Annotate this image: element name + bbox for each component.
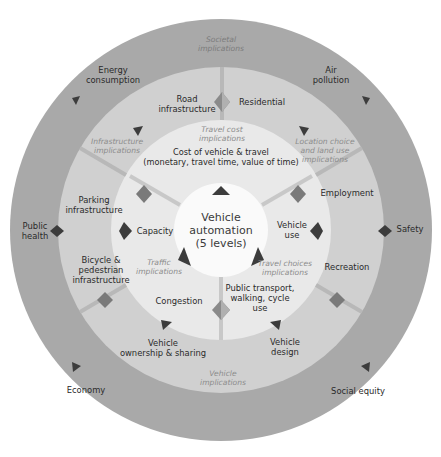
label-public-health: Public health (22, 221, 49, 241)
label-air-pollution: Air pollution (313, 65, 349, 85)
label-travel-cost-implications: Travel cost implications (199, 125, 245, 143)
label-congestion: Congestion (155, 296, 202, 306)
label-societal-implications: Societal implications (198, 35, 244, 53)
label-travel-choices-implications: Travel choices implications (258, 259, 312, 277)
label-infrastructure-implications: Infrastructure implications (91, 137, 143, 155)
label-location-choice-implications: Location choice and land use implication… (295, 137, 354, 164)
label-vehicle-use: Vehicle use (277, 220, 307, 240)
label-vehicle-ownership-sharing: Vehicle ownership & sharing (120, 338, 206, 358)
label-recreation: Recreation (325, 262, 370, 272)
label-public-transport: Public transport, walking, cycle use (226, 283, 295, 313)
label-vehicle-implications: Vehicle implications (200, 369, 246, 387)
label-economy: Economy (67, 385, 106, 395)
label-parking-infrastructure: Parking infrastructure (65, 195, 122, 215)
label-bicycle-pedestrian-infrastructure: Bicycle & pedestrian infrastructure (72, 255, 129, 285)
label-cost-of-vehicle: Cost of vehicle & travel (monetary, trav… (143, 147, 298, 167)
label-energy-consumption: Energy consumption (86, 65, 140, 85)
label-social-equity: Social equity (331, 386, 385, 396)
center-label: Vehicle automation (5 levels) (189, 211, 252, 250)
label-road-infrastructure: Road infrastructure (158, 94, 215, 114)
label-traffic-implications: Traffic implications (136, 258, 182, 276)
label-residential: Residential (239, 97, 285, 107)
label-capacity: Capacity (137, 226, 174, 236)
label-safety: Safety (397, 224, 424, 234)
label-vehicle-design: Vehicle design (270, 337, 300, 357)
label-employment: Employment (320, 188, 373, 198)
